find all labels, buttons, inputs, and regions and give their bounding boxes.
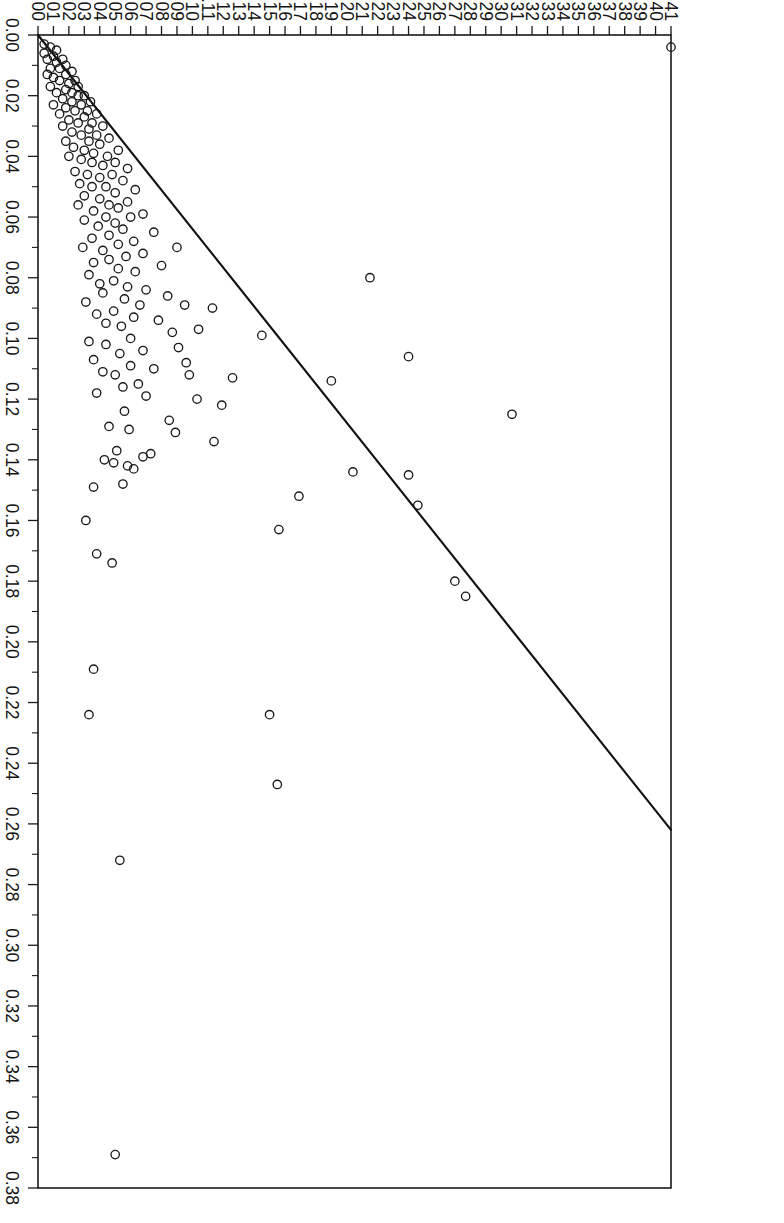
x-tick-label: 0.08 (2, 261, 22, 295)
x-tick-label: 0.02 (2, 79, 22, 113)
x-tick-label: 0.06 (2, 200, 22, 234)
x-tick-label: 0.00 (2, 18, 22, 52)
x-tick-label: 0.28 (2, 868, 22, 902)
x-tick-label: 0.34 (2, 1050, 22, 1084)
x-tick-label: 0.20 (2, 625, 22, 659)
x-tick-label: 0.14 (2, 443, 22, 477)
x-tick-label: 0.12 (2, 382, 22, 416)
y-tick-label: 0.41 (661, 0, 681, 21)
figure-background (0, 0, 784, 1223)
x-tick-label: 0.16 (2, 503, 22, 537)
x-tick-label: 0.32 (2, 989, 22, 1023)
x-tick-label: 0.38 (2, 1171, 22, 1205)
x-tick-label: 0.24 (2, 746, 22, 780)
x-tick-label: 0.18 (2, 564, 22, 598)
rotated-figure-stage: 0.000.020.040.060.080.100.120.140.160.18… (0, 0, 784, 1223)
x-tick-label: 0.10 (2, 321, 22, 355)
x-tick-label: 0.22 (2, 685, 22, 719)
x-tick-label: 0.26 (2, 807, 22, 841)
x-tick-label: 0.30 (2, 928, 22, 962)
x-tick-label: 0.36 (2, 1110, 22, 1144)
scatter-plot-figure: 0.000.020.040.060.080.100.120.140.160.18… (0, 0, 784, 1223)
plot-canvas: 0.000.020.040.060.080.100.120.140.160.18… (0, 0, 784, 1223)
x-tick-label: 0.04 (2, 139, 22, 173)
